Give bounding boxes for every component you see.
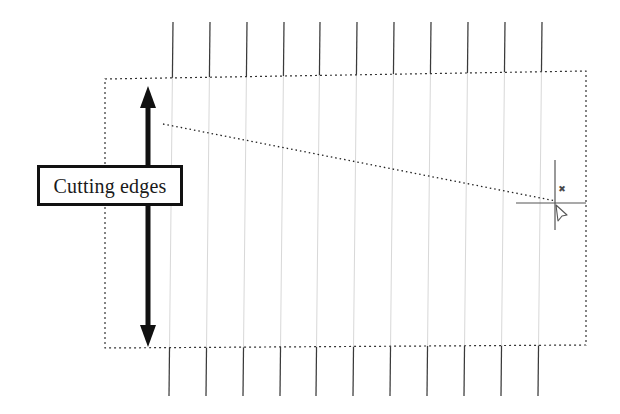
dashed-rectangle-outline xyxy=(105,71,586,348)
tool-line xyxy=(170,78,173,348)
tool-line xyxy=(467,22,468,73)
tool-line xyxy=(391,74,394,346)
mouse-cursor-icon xyxy=(556,205,567,221)
vertical-double-arrow xyxy=(140,86,156,347)
tool-line xyxy=(169,348,170,396)
tool-line xyxy=(390,346,391,396)
tool-line xyxy=(465,73,468,346)
tool-line xyxy=(538,345,539,396)
double-arrow-head-top xyxy=(140,86,156,108)
tool-line xyxy=(206,347,207,396)
tool-line xyxy=(244,77,247,348)
tool-line xyxy=(428,74,431,346)
tool-line xyxy=(243,347,244,396)
tool-line xyxy=(504,22,505,72)
tool-line xyxy=(172,22,173,78)
tool-line xyxy=(209,22,210,77)
tool-line xyxy=(464,346,465,396)
tool-line xyxy=(541,22,542,72)
dotted-leader-line xyxy=(163,124,556,201)
tool-line xyxy=(501,346,502,396)
tool-line xyxy=(317,75,320,346)
figure-canvas: ✖ Cutting edges xyxy=(0,0,620,414)
crosshair-x-glyph: ✖ xyxy=(558,184,566,194)
tool-line xyxy=(393,22,394,74)
tool-line xyxy=(353,346,354,396)
tool-line xyxy=(354,75,357,347)
tool-line xyxy=(430,22,431,74)
tool-line xyxy=(319,22,320,75)
tool-line xyxy=(502,72,505,345)
tool-line xyxy=(356,22,357,75)
tool-line xyxy=(281,76,284,347)
tool-line xyxy=(246,22,247,77)
tool-lines-inside-group xyxy=(170,72,542,348)
cutting-edges-callout-box: Cutting edges xyxy=(37,165,183,206)
tool-line xyxy=(280,347,281,396)
tool-line xyxy=(207,77,210,347)
tool-line xyxy=(427,346,428,396)
cutting-edges-label: Cutting edges xyxy=(53,176,166,196)
diagram-svg: ✖ xyxy=(0,0,620,414)
tool-line xyxy=(539,72,542,346)
double-arrow-head-bottom xyxy=(140,325,156,347)
tool-line xyxy=(283,22,284,76)
tool-line xyxy=(316,347,317,396)
